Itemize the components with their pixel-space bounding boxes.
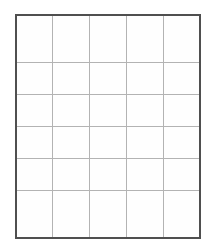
table-cell[interactable] [16, 190, 53, 238]
table-row [16, 95, 200, 127]
table-cell[interactable] [163, 158, 200, 190]
table-cell[interactable] [163, 190, 200, 238]
table-cell[interactable] [126, 126, 163, 158]
table-cell[interactable] [163, 15, 200, 63]
table-row [16, 63, 200, 95]
table-cell[interactable] [16, 126, 53, 158]
table-cell[interactable] [53, 126, 90, 158]
table-cell[interactable] [90, 15, 127, 63]
table-cell[interactable] [90, 126, 127, 158]
table-cell[interactable] [163, 126, 200, 158]
table-cell[interactable] [126, 95, 163, 127]
table-cell[interactable] [53, 15, 90, 63]
table-cell[interactable] [16, 63, 53, 95]
table-cell[interactable] [16, 158, 53, 190]
table-cell[interactable] [53, 95, 90, 127]
table-cell[interactable] [163, 95, 200, 127]
table-cell[interactable] [126, 15, 163, 63]
table-cell[interactable] [90, 63, 127, 95]
table-cell[interactable] [53, 158, 90, 190]
table-row [16, 158, 200, 190]
table-cell[interactable] [126, 190, 163, 238]
table-cell[interactable] [163, 63, 200, 95]
page-canvas [0, 0, 212, 251]
blank-grid-table[interactable] [15, 14, 201, 239]
table-row [16, 126, 200, 158]
table-row [16, 190, 200, 238]
table-cell[interactable] [126, 158, 163, 190]
table-row [16, 15, 200, 63]
table-cell[interactable] [90, 190, 127, 238]
table-cell[interactable] [16, 95, 53, 127]
table-cell[interactable] [126, 63, 163, 95]
table-cell[interactable] [90, 158, 127, 190]
table-cell[interactable] [53, 63, 90, 95]
table-cell[interactable] [16, 15, 53, 63]
table-cell[interactable] [53, 190, 90, 238]
grid-body [16, 15, 200, 238]
table-cell[interactable] [90, 95, 127, 127]
